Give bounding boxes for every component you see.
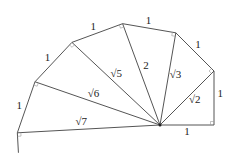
label-hypotenuse-5: √5 — [111, 67, 123, 79]
right-angle-mark — [209, 69, 211, 74]
hypotenuse-7 — [17, 125, 160, 133]
center-point — [159, 124, 162, 127]
label-unit-4: 1 — [146, 14, 152, 26]
label-unit-6: 1 — [45, 51, 51, 63]
label-unit-1: 1 — [184, 125, 190, 137]
label-unit-3: 1 — [195, 38, 201, 50]
label-unit-7: 1 — [16, 99, 22, 111]
unit-edge-5 — [35, 42, 72, 81]
label-unit-5: 1 — [91, 20, 97, 32]
right-angle-mark — [211, 122, 215, 126]
label-hypotenuse-7: √7 — [75, 115, 87, 127]
unit-edge-7 — [17, 133, 18, 153]
label-hypotenuse-4: 2 — [143, 59, 149, 71]
label-hypotenuse-2: √2 — [189, 93, 201, 105]
hypotenuse-4 — [123, 24, 160, 125]
hypotenuse-5 — [72, 42, 160, 125]
label-hypotenuse-6: √6 — [88, 87, 100, 99]
spiral-of-theodorus: 1111111√2√32√5√6√7 — [0, 0, 233, 165]
unit-edge-4 — [72, 24, 123, 43]
right-angle-mark — [70, 45, 75, 48]
label-unit-2: 1 — [218, 87, 224, 99]
label-hypotenuse-3: √3 — [170, 68, 182, 80]
